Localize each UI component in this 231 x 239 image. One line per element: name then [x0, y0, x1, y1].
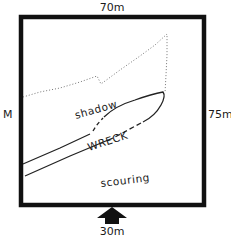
wreck-label: WRECK — [86, 128, 130, 152]
left-side-label: M — [3, 108, 13, 121]
bottom-dimension-label: 30m — [100, 225, 125, 238]
shadow-label: shadow — [73, 97, 118, 121]
shadow-boundary-line — [23, 34, 167, 97]
wreck-site-diagram: 70m M 75m shadow WRECK scouring 30m — [0, 0, 231, 239]
diagram-canvas: 70m M 75m shadow WRECK scouring 30m — [0, 0, 231, 239]
top-dimension-label: 70m — [100, 1, 125, 14]
arrow-up-icon — [97, 207, 127, 224]
wreck-upper-dashed-segment — [93, 118, 103, 131]
right-dimension-label: 75m — [208, 108, 231, 121]
scouring-label: scouring — [100, 171, 151, 189]
wreck-upper-edge — [23, 134, 90, 164]
